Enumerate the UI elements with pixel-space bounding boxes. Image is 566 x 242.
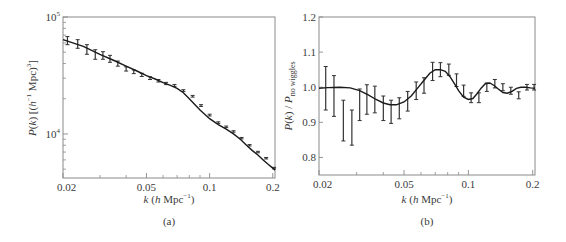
- panel-b-caption: (b): [421, 215, 434, 228]
- x-tick-label: 0.05: [137, 181, 157, 193]
- panel-a-frame: [63, 17, 275, 178]
- error-bar: [406, 91, 410, 111]
- error-bar: [232, 131, 236, 132]
- x-tick-label: 0.2: [526, 178, 540, 190]
- panel-b-y-ticks: 0.80.91.01.11.2: [302, 11, 323, 163]
- error-bar: [264, 157, 268, 158]
- panel-a-y-ticks: 104105: [46, 10, 69, 169]
- panel-a-power-spectrum: 0.020.050.10.2 104105 k (h Mpc−1) P(k) […: [25, 10, 280, 228]
- y-tick-label: 105: [46, 10, 61, 23]
- panel-a-x-ticks: 0.020.050.10.2: [57, 173, 280, 193]
- y-tick-label: 0.8: [302, 151, 316, 163]
- x-tick-label: 0.02: [313, 178, 332, 190]
- y-tick-label: 1.1: [302, 46, 316, 58]
- figure-canvas: 0.020.050.10.2 104105 k (h Mpc−1) P(k) […: [0, 0, 566, 242]
- error-bar: [191, 95, 195, 97]
- panel-a-error-bars: [65, 37, 276, 169]
- error-bar: [469, 93, 473, 103]
- panel-b-x-ticks: 0.020.050.10.2: [313, 170, 540, 190]
- error-bar: [332, 76, 336, 117]
- x-tick-label: 0.02: [57, 181, 76, 193]
- error-bar: [365, 85, 369, 114]
- panel-a-y-axis-label: P(k) [(h−1 Mpc)3]: [25, 60, 39, 137]
- y-tick-label: 0.9: [302, 116, 316, 128]
- error-bar: [248, 145, 252, 146]
- error-bar: [350, 110, 354, 145]
- x-tick-label: 0.2: [266, 181, 280, 193]
- panel-b-frame: [319, 17, 535, 175]
- error-bar: [199, 105, 203, 107]
- y-tick-label: 1.0: [302, 81, 316, 93]
- error-bar: [256, 151, 260, 152]
- error-bar: [224, 126, 228, 128]
- y-tick-label: 104: [46, 127, 61, 140]
- error-bar: [477, 93, 481, 103]
- y-tick-label: 1.2: [302, 11, 316, 23]
- panel-a-x-axis-label: k (h Mpc−1): [144, 192, 195, 206]
- panel-b-error-bars: [324, 62, 536, 145]
- x-tick-label: 0.1: [462, 178, 476, 190]
- panel-b-wiggle-ratio: 0.020.050.10.2 0.80.91.01.11.2 k (h Mpc−…: [282, 11, 540, 228]
- error-bar: [358, 89, 362, 121]
- error-bar: [381, 96, 385, 121]
- x-tick-label: 0.05: [394, 178, 414, 190]
- error-bar: [389, 100, 393, 123]
- panel-b-y-axis-label: P(k) / Pno wiggles: [282, 61, 297, 131]
- error-bar: [397, 98, 401, 119]
- x-tick-label: 0.1: [203, 181, 217, 193]
- error-bar: [341, 100, 345, 141]
- error-bar: [517, 92, 521, 99]
- error-bar: [208, 114, 212, 116]
- error-bar: [501, 84, 505, 91]
- panel-a-caption: (a): [163, 215, 176, 228]
- panel-b-x-axis-label: k (h Mpc−1): [402, 192, 453, 206]
